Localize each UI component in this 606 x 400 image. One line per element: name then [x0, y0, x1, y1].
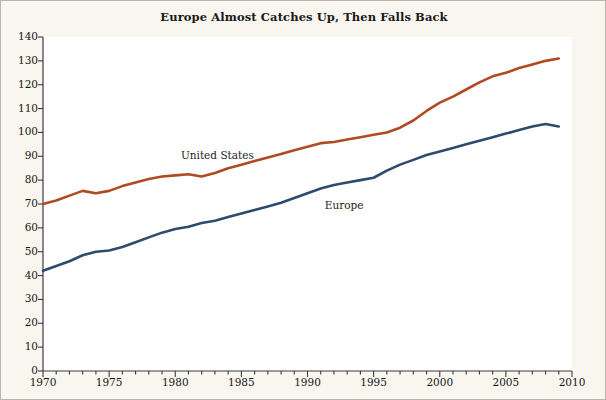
- chart-figure: Europe Almost Catches Up, Then Falls Bac…: [0, 0, 606, 400]
- x-axis-minor-ticks: [43, 371, 572, 377]
- series-label-united-states: United States: [181, 149, 254, 161]
- series-label-europe: Europe: [325, 199, 364, 211]
- axis-lines: [43, 37, 572, 371]
- series-line-europe: [43, 124, 559, 271]
- series-line-united-states: [43, 58, 559, 204]
- chart-plot-svg: [1, 1, 606, 400]
- data-series-lines: [43, 58, 559, 270]
